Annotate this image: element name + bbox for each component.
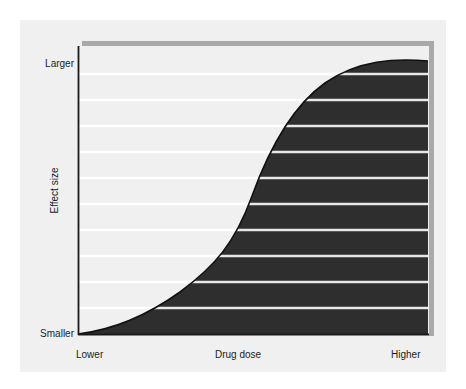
x-axis-title: Drug dose bbox=[215, 349, 261, 360]
y-axis-tick-label-smaller: Smaller bbox=[26, 328, 74, 339]
x-axis-tick-label-higher: Higher bbox=[391, 349, 420, 360]
chart-figure: Larger Smaller Effect size Lower Drug do… bbox=[0, 0, 466, 389]
y-axis-title: Effect size bbox=[49, 131, 60, 251]
x-axis-tick-label-lower: Lower bbox=[76, 349, 103, 360]
y-axis-tick-label-larger: Larger bbox=[30, 58, 74, 69]
